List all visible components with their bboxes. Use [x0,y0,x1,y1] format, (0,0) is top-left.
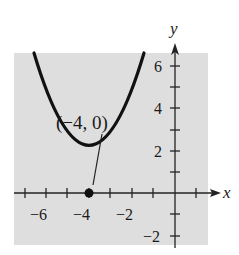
parabola-graph: (−4, 0) x y −6 −4 −2 6 4 2 −2 [0,0,239,255]
x-tick-label-neg6: −6 [30,206,47,223]
x-axis-label: x [222,183,231,202]
y-tick-label-4: 4 [154,100,162,117]
x-tick-label-neg4: −4 [73,206,90,223]
vertex-point [85,189,94,198]
x-tick-label-neg2: −2 [116,206,133,223]
y-tick-label-6: 6 [154,58,162,75]
y-tick-label-neg2: −2 [143,228,160,245]
vertex-label: (−4, 0) [56,112,108,134]
y-axis-label: y [168,19,178,38]
y-tick-label-2: 2 [154,143,162,160]
